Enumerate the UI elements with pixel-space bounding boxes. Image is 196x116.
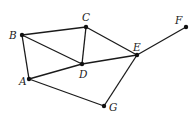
node-label-e: E: [132, 41, 141, 53]
node-a: [27, 77, 31, 81]
edge-d-e: [82, 55, 137, 64]
node-e: [135, 53, 139, 57]
node-g: [102, 104, 106, 108]
edge-c-e: [86, 27, 137, 55]
node-label-g: G: [109, 101, 117, 113]
graph-edges: [22, 27, 186, 106]
node-d: [80, 62, 84, 66]
node-c: [84, 25, 88, 29]
node-label-c: C: [82, 11, 90, 23]
edge-a-g: [29, 79, 104, 106]
edge-b-a: [22, 35, 29, 79]
node-label-a: A: [18, 75, 27, 87]
edge-b-c: [22, 27, 86, 35]
edge-e-f: [137, 27, 186, 55]
node-b: [20, 33, 24, 37]
edge-c-d: [82, 27, 86, 64]
edge-e-g: [104, 55, 137, 106]
edge-a-d: [29, 64, 82, 79]
graph-diagram: ABCDEFG: [0, 0, 196, 116]
node-label-f: F: [174, 14, 183, 26]
node-label-d: D: [78, 68, 88, 80]
node-label-b: B: [8, 29, 17, 41]
edge-b-d: [22, 35, 82, 64]
node-f: [184, 25, 188, 29]
